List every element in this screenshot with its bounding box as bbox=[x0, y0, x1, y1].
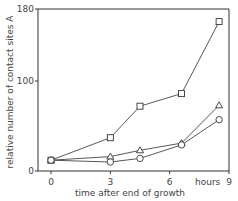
series-layer bbox=[48, 19, 223, 166]
circle-marker-icon bbox=[107, 159, 113, 165]
square-marker-icon bbox=[216, 19, 222, 25]
x-tick-label: 3 bbox=[107, 177, 113, 187]
x-tick-label: 9 bbox=[226, 177, 232, 187]
circle-marker-icon bbox=[178, 142, 184, 148]
plot-frame bbox=[38, 9, 229, 171]
circle-marker-icon bbox=[216, 117, 222, 123]
circle-marker-icon bbox=[48, 157, 54, 163]
y-axis-ticks: 0100180 bbox=[17, 4, 38, 176]
circle-marker-icon bbox=[137, 155, 143, 161]
series-line bbox=[51, 22, 219, 161]
series-line bbox=[51, 120, 219, 162]
square-marker-icon bbox=[107, 135, 113, 141]
series-circles bbox=[48, 117, 223, 166]
x-tick-label: 0 bbox=[48, 177, 54, 187]
y-axis-label: relative number of contact sites A bbox=[5, 15, 15, 169]
plot-area bbox=[38, 9, 229, 171]
x-tick-label: 6 bbox=[167, 177, 173, 187]
square-marker-icon bbox=[137, 103, 143, 109]
y-tick-label: 180 bbox=[17, 4, 34, 14]
triangle-marker-icon bbox=[216, 102, 223, 108]
series-squares bbox=[48, 19, 222, 164]
series-line bbox=[51, 105, 219, 160]
square-marker-icon bbox=[179, 91, 185, 97]
x-axis-unit-label: hours bbox=[195, 177, 221, 187]
y-tick-label: 100 bbox=[17, 76, 34, 86]
y-axis-title: relative number of contact sites A bbox=[5, 15, 15, 169]
line-chart: relative number of contact sites A 01001… bbox=[0, 0, 238, 201]
x-axis-label: time after end of growth bbox=[75, 188, 185, 198]
y-tick-label: 0 bbox=[28, 166, 34, 176]
